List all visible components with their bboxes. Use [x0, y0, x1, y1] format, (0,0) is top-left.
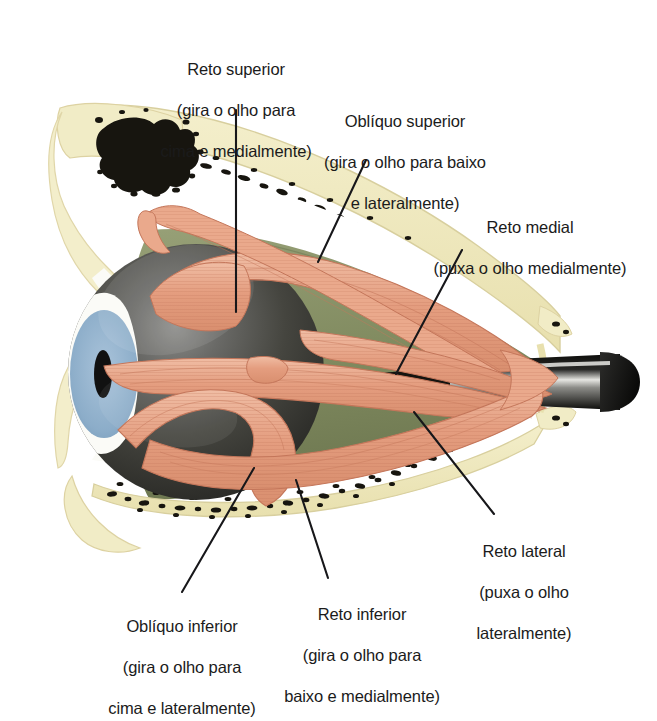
label-reto-superior-title: Reto superior — [128, 59, 344, 80]
label-reto-inferior-title: Reto inferior — [262, 604, 462, 625]
label-reto-medial-line2: (puxa o olho medialmente) — [414, 258, 646, 279]
label-reto-inferior-line3: baixo e medialmente) — [262, 686, 462, 707]
label-reto-lateral-title: Reto lateral — [434, 541, 614, 562]
label-obliquo-superior-title: Oblíquo superior — [292, 111, 518, 132]
label-obliquo-inferior: Oblíquo inferior (gira o olho para cima … — [72, 595, 292, 721]
label-reto-inferior: Reto inferior (gira o olho para baixo e … — [262, 583, 462, 721]
label-obliquo-inferior-line2: (gira o olho para — [72, 657, 292, 678]
label-reto-inferior-line2: (gira o olho para — [262, 645, 462, 666]
label-reto-medial: Reto medial (puxa o olho medialmente) — [414, 196, 646, 299]
label-reto-medial-title: Reto medial — [414, 217, 646, 238]
label-obliquo-inferior-line3: cima e lateralmente) — [72, 698, 292, 719]
label-obliquo-superior-line2: (gira o olho para baixo — [292, 152, 518, 173]
label-obliquo-inferior-title: Oblíquo inferior — [72, 616, 292, 637]
